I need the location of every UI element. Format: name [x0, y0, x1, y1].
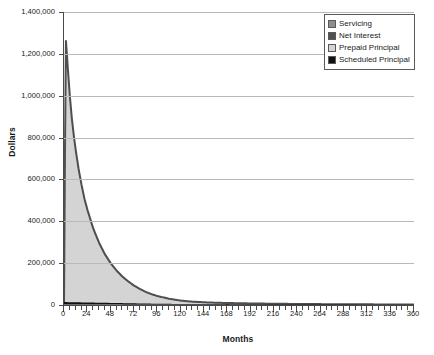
legend-swatch-icon: [328, 20, 336, 28]
y-tick-mark-600000: [59, 179, 63, 180]
y-tick-label-0: 0: [0, 301, 55, 309]
y-tick-mark-200000: [59, 263, 63, 264]
y-tick-label-1200000: 1,200,000: [0, 50, 55, 58]
x-tick-label-360: 360: [393, 310, 433, 318]
legend-swatch-icon: [328, 32, 336, 40]
y-tick-mark-1400000: [59, 12, 63, 13]
legend-swatch-icon: [328, 44, 336, 52]
series-line-net-interest: [64, 41, 414, 305]
y-tick-label-400000: 400,000: [0, 217, 55, 225]
legend-swatch-icon: [328, 56, 336, 64]
legend-item-label: Net Interest: [339, 32, 380, 40]
y-axis-title: Dollars: [7, 112, 17, 172]
chart-container: Dollars 0200,000400,000600,000800,0001,0…: [0, 0, 434, 355]
legend-item-label: Prepaid Principal: [339, 44, 399, 52]
y-tick-label-200000: 200,000: [0, 259, 55, 267]
y-tick-label-1400000: 1,400,000: [0, 8, 55, 16]
gridline-y-1400000: [64, 12, 414, 13]
y-tick-mark-1200000: [59, 54, 63, 55]
series-area-net-interest: [64, 41, 414, 305]
gridline-y-1000000: [64, 96, 414, 97]
gridline-y-600000: [64, 179, 414, 180]
chart-legend: ServicingNet InterestPrepaid PrincipalSc…: [324, 14, 415, 70]
series-area-prepaid-principal: [64, 44, 414, 305]
gridline-y-800000: [64, 138, 414, 139]
x-axis-title: Months: [63, 334, 413, 344]
legend-item-scheduled-principal[interactable]: Scheduled Principal: [328, 54, 410, 66]
y-tick-mark-800000: [59, 138, 63, 139]
gridline-y-200000: [64, 263, 414, 264]
legend-item-servicing[interactable]: Servicing: [328, 18, 410, 30]
y-tick-label-1000000: 1,000,000: [0, 92, 55, 100]
legend-item-prepaid-principal[interactable]: Prepaid Principal: [328, 42, 410, 54]
legend-item-net-interest[interactable]: Net Interest: [328, 30, 410, 42]
legend-item-label: Scheduled Principal: [339, 56, 410, 64]
y-tick-mark-400000: [59, 221, 63, 222]
legend-item-label: Servicing: [339, 20, 372, 28]
y-tick-mark-1000000: [59, 96, 63, 97]
y-tick-label-800000: 800,000: [0, 134, 55, 142]
y-tick-label-600000: 600,000: [0, 175, 55, 183]
gridline-y-400000: [64, 221, 414, 222]
